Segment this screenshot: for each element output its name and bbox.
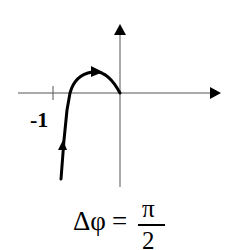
direction-arrow-up-icon	[58, 140, 67, 150]
formula-lhs: Δφ	[73, 208, 106, 235]
imaginary-axis-arrow-icon	[114, 24, 126, 35]
phase-margin-formula: Δφ = π 2	[70, 196, 170, 250]
formula-equals: =	[112, 208, 127, 235]
formula-numerator: π	[142, 196, 155, 221]
direction-arrow-right-icon	[91, 66, 103, 77]
formula-denominator: 2	[142, 228, 155, 250]
tick-label-minus-one: -1	[30, 109, 48, 131]
real-axis-arrow-icon	[210, 87, 221, 99]
fraction-bar	[138, 224, 165, 226]
frequency-response-curve	[61, 72, 120, 179]
